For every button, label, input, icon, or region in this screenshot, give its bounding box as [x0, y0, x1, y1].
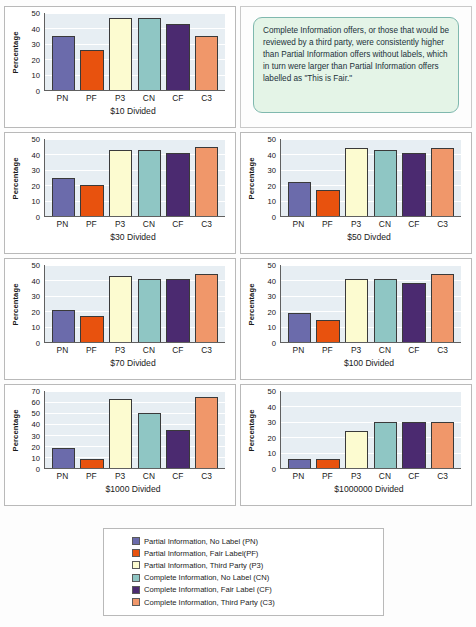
- bar-pf: [80, 316, 103, 342]
- legend-swatch-icon: [132, 537, 140, 545]
- x-axis-ticks: PNPFP3CNCFC3: [284, 471, 457, 481]
- y-tick-label: 20: [268, 181, 276, 190]
- bar-pf: [80, 459, 103, 468]
- x-tick-label: CF: [166, 345, 189, 355]
- bar-cn: [138, 150, 161, 216]
- y-axis-ticks: 01020304050: [258, 391, 278, 469]
- x-axis-ticks: PNPFP3CNCFC3: [48, 471, 221, 481]
- chart-panel-10-divided: Percentage01020304050PNPFP3CNCFC3$10 Div…: [4, 6, 236, 128]
- y-tick-label: 20: [32, 442, 40, 451]
- legend-item-label: Partial Information, No Label (PN): [144, 537, 258, 546]
- legend-item-label: Complete Information, No Label (CN): [144, 573, 269, 582]
- bar-pn: [52, 310, 75, 342]
- x-tick-label: PN: [51, 471, 74, 481]
- bar-p3: [345, 148, 368, 216]
- legend-item: Partial Information, Third Party (P3): [104, 559, 383, 571]
- x-tick-label: C3: [195, 345, 218, 355]
- x-tick-label: PF: [80, 345, 103, 355]
- legend-swatch-icon: [132, 586, 140, 594]
- bar-p3: [109, 18, 132, 90]
- x-tick-label: PN: [51, 219, 74, 229]
- x-tick-label: CF: [166, 93, 189, 103]
- chart-panel-1000000-divided: Percentage01020304050PNPFP3CNCFC3$100000…: [240, 384, 472, 506]
- figure-legend: Partial Information, No Label (PN)Partia…: [103, 528, 384, 616]
- bar-group: [49, 13, 221, 90]
- y-axis-label: Percentage: [10, 13, 22, 91]
- x-tick-label: PF: [316, 345, 339, 355]
- legend-swatch-icon: [132, 574, 140, 582]
- x-tick-label: CN: [137, 345, 160, 355]
- bar-c3: [195, 274, 218, 342]
- x-tick-label: PN: [51, 93, 74, 103]
- x-tick-label: PF: [316, 219, 339, 229]
- legend-swatch-icon: [132, 598, 140, 606]
- plot-area: [44, 13, 225, 91]
- bar-pn: [52, 448, 75, 468]
- y-tick-label: 30: [32, 292, 40, 301]
- bar-cf: [166, 24, 189, 90]
- y-tick-label: 40: [32, 24, 40, 33]
- x-tick-label: C3: [195, 471, 218, 481]
- bar-pf: [316, 459, 339, 468]
- bar-cf: [166, 153, 189, 216]
- y-tick-label: 10: [32, 71, 40, 80]
- bar-pn: [288, 459, 311, 468]
- x-tick-label: CF: [166, 219, 189, 229]
- bar-c3: [431, 148, 454, 216]
- bar-cn: [138, 279, 161, 342]
- y-tick-label: 20: [32, 307, 40, 316]
- bar-cf: [166, 430, 189, 469]
- legend-item: Partial Information, No Label (PN): [104, 535, 383, 547]
- chart-title: $10 Divided: [35, 106, 231, 116]
- y-axis-label: Percentage: [246, 265, 258, 343]
- y-tick-label: 30: [32, 166, 40, 175]
- y-tick-label: 50: [32, 409, 40, 418]
- y-tick-label: 30: [268, 418, 276, 427]
- y-tick-label: 0: [36, 465, 40, 474]
- x-tick-label: CF: [166, 471, 189, 481]
- y-axis-ticks: 010203040506070: [22, 391, 42, 469]
- legend-item: Complete Information, Third Party (C3): [104, 596, 383, 608]
- bar-group: [49, 265, 221, 342]
- bar-cf: [402, 283, 425, 342]
- x-tick-label: CN: [373, 471, 396, 481]
- y-tick-label: 10: [32, 453, 40, 462]
- chart-panel-100-divided: Percentage01020304050PNPFP3CNCFC3$100 Di…: [240, 258, 472, 380]
- bar-cf: [166, 279, 189, 342]
- y-tick-label: 20: [268, 307, 276, 316]
- bar-pf: [316, 190, 339, 216]
- chart-panel-30-divided: Percentage01020304050PNPFP3CNCFC3$30 Div…: [4, 132, 236, 254]
- y-tick-label: 50: [32, 135, 40, 144]
- chart-1000000-divided: Percentage01020304050PNPFP3CNCFC3$100000…: [241, 385, 471, 505]
- figure-page: Percentage01020304050PNPFP3CNCFC3$10 Div…: [0, 0, 476, 627]
- y-tick-label: 30: [268, 166, 276, 175]
- x-tick-label: CF: [402, 219, 425, 229]
- y-axis-ticks: 01020304050: [258, 265, 278, 343]
- x-tick-label: P3: [344, 345, 367, 355]
- y-tick-label: 30: [268, 292, 276, 301]
- y-tick-label: 40: [32, 420, 40, 429]
- bar-cf: [402, 422, 425, 468]
- bar-p3: [109, 150, 132, 216]
- y-tick-label: 50: [32, 261, 40, 270]
- x-tick-label: P3: [108, 345, 131, 355]
- chart-title: $1000 Divided: [35, 484, 231, 494]
- bar-cn: [138, 18, 161, 90]
- chart-panel-70-divided: Percentage01020304050PNPFP3CNCFC3$70 Div…: [4, 258, 236, 380]
- legend-item-label: Complete Information, Third Party (C3): [144, 598, 275, 607]
- legend-item: Partial Information, Fair Label(PF): [104, 547, 383, 559]
- x-tick-label: PN: [287, 219, 310, 229]
- bar-c3: [431, 422, 454, 468]
- bar-group: [285, 265, 457, 342]
- legend-swatch-icon: [132, 549, 140, 557]
- bar-pn: [288, 182, 311, 216]
- bar-p3: [109, 276, 132, 342]
- y-tick-label: 40: [32, 150, 40, 159]
- y-axis-label: Percentage: [246, 139, 258, 217]
- y-axis-label: Percentage: [10, 265, 22, 343]
- plot-area: [280, 139, 461, 217]
- legend-item: Complete Information, No Label (CN): [104, 572, 383, 584]
- callout-panel: Complete Information offers, or those th…: [240, 6, 472, 128]
- x-axis-ticks: PNPFP3CNCFC3: [284, 219, 457, 229]
- chart-1000-divided: Percentage010203040506070PNPFP3CNCFC3$10…: [5, 385, 235, 505]
